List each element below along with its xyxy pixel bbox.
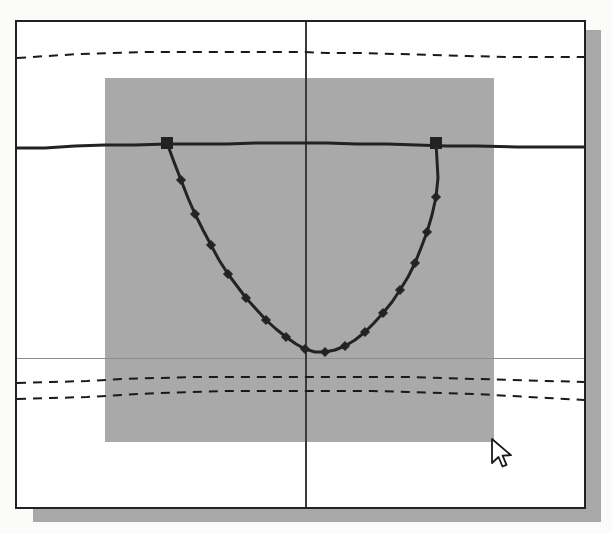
marker-diamond	[321, 348, 330, 357]
plot-canvas[interactable]	[17, 22, 584, 507]
series-lower-dashed-envelope-2	[17, 391, 584, 400]
series-lower-dashed-envelope-1	[17, 377, 584, 383]
series-line-baseline-solid	[17, 143, 584, 148]
marker-diamond	[177, 176, 186, 185]
mouse-cursor-arrow-icon	[489, 437, 515, 471]
window-shadow-bottom	[33, 508, 601, 522]
plot-window[interactable]	[15, 20, 586, 509]
series-line-lower-dashed-envelope-1	[17, 377, 584, 383]
marker-diamond	[423, 228, 432, 237]
series-baseline-solid	[17, 138, 584, 149]
series-parabola-curve	[163, 139, 441, 357]
screenshot-stage	[0, 0, 612, 534]
series-overlay	[17, 22, 584, 507]
series-line-lower-dashed-envelope-2	[17, 391, 584, 400]
marker-diamond	[432, 193, 441, 202]
series-upper-dashed-envelope	[17, 52, 584, 58]
window-shadow-right	[586, 30, 601, 522]
series-line-upper-dashed-envelope	[17, 52, 584, 58]
series-line-parabola-curve	[167, 143, 438, 352]
